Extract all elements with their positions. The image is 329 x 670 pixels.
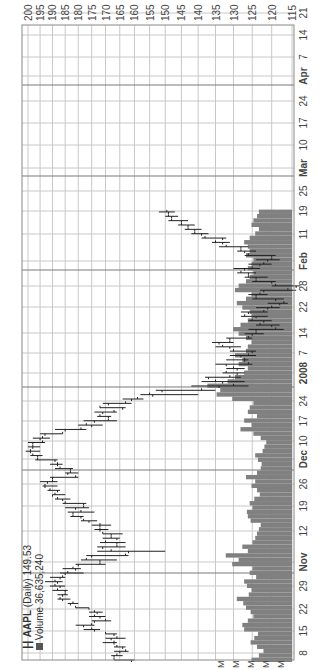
volume-bar xyxy=(259,210,292,214)
ohlc-icon: ┠┨ xyxy=(23,640,33,650)
volume-bar xyxy=(257,471,292,475)
date-tick-label: 22 xyxy=(298,301,309,313)
volume-bar xyxy=(263,649,292,653)
ohlc-bar xyxy=(103,401,132,405)
ohlc-bar xyxy=(47,488,60,492)
date-tick-label: Mar xyxy=(298,159,309,177)
date-tick-label: 21 xyxy=(298,7,309,19)
volume-bar xyxy=(252,484,292,488)
ohlc-bar xyxy=(97,545,125,549)
volume-value: 36,635,240 xyxy=(34,554,45,604)
ohlc-bar xyxy=(97,414,111,418)
volume-bar xyxy=(259,653,292,657)
date-tick-label: 10 xyxy=(298,139,309,151)
ohlc-chart: 2001951901851801751701651601551501451401… xyxy=(0,0,329,670)
ohlc-bar xyxy=(165,214,178,218)
volume-bar xyxy=(242,623,292,627)
volume-bar xyxy=(244,371,292,375)
date-tick-label: 26 xyxy=(298,478,309,490)
volume-bar xyxy=(261,523,292,527)
date-tick-label: 17 xyxy=(298,117,309,129)
date-tick-label: 28 xyxy=(298,280,309,292)
volume-bar xyxy=(248,619,292,623)
volume-bar xyxy=(254,636,292,640)
volume-bar xyxy=(250,501,292,505)
price-tick-label: 180 xyxy=(73,4,84,21)
date-tick-label: 24 xyxy=(298,395,309,407)
ohlc-bar xyxy=(45,580,63,584)
ohlc-bar xyxy=(84,419,117,423)
ohlc-bar xyxy=(65,471,78,475)
volume-bar xyxy=(248,344,292,348)
date-tick-label: 8 xyxy=(298,650,309,656)
volume-bar xyxy=(251,640,292,644)
volume-bar xyxy=(252,588,292,592)
ohlc-bar xyxy=(63,501,87,505)
ohlc-bar xyxy=(86,554,128,558)
price-tick-label: 155 xyxy=(145,4,156,21)
date-tick-label: Apr xyxy=(298,67,309,84)
volume-bar xyxy=(253,401,292,405)
date-tick-label: 11 xyxy=(298,228,309,239)
date-tick-label: 29 xyxy=(298,580,309,592)
volume-bar xyxy=(254,497,292,501)
ohlc-bar xyxy=(70,514,83,518)
volume-tick-label: M xyxy=(276,661,286,669)
ohlc-bar xyxy=(76,562,106,566)
date-tick-label: 7 xyxy=(298,350,309,356)
date-tick-label: Dec xyxy=(298,449,309,468)
volume-bar xyxy=(237,597,292,601)
volume-bar xyxy=(242,545,292,549)
ohlc-bar xyxy=(30,454,42,458)
price-legend: ┠┨ AAPL (Daily) 149.53 xyxy=(22,545,34,650)
interval-label: (Daily) xyxy=(22,578,33,607)
volume-bar xyxy=(247,510,292,514)
ohlc-bar xyxy=(216,345,241,349)
volume-tick-label: M xyxy=(231,661,241,669)
volume-bar xyxy=(248,366,292,370)
volume-bar xyxy=(217,392,292,396)
volume-bar xyxy=(247,584,292,588)
volume-bar xyxy=(262,462,292,466)
ohlc-bar xyxy=(55,427,86,431)
volume-tick-label: M xyxy=(216,661,226,669)
price-tick-label: 125 xyxy=(247,4,258,21)
volume-bar xyxy=(246,605,292,609)
price-tick-label: 200 xyxy=(23,4,34,21)
ohlc-bar xyxy=(106,632,117,636)
volume-bar xyxy=(249,592,292,596)
volume-bar xyxy=(259,227,292,231)
ohlc-bar xyxy=(212,240,230,244)
ohlc-bar xyxy=(106,636,126,640)
volume-tick-label: M xyxy=(261,661,271,669)
volume-bar xyxy=(250,405,292,409)
volume-bar xyxy=(244,418,292,422)
chart-window: 2001951901851801751701651601551501451401… xyxy=(0,0,329,670)
ohlc-bar xyxy=(81,558,117,562)
chart-legend: ┠┨ AAPL (Daily) 149.53 Volume 36,635,240 xyxy=(22,545,46,650)
date-tick-label: 15 xyxy=(298,625,309,637)
volume-bar xyxy=(253,614,292,618)
volume-bar xyxy=(261,436,292,440)
ohlc-bar xyxy=(100,406,126,410)
date-tick-label: 17 xyxy=(298,415,309,427)
price-tick-label: 190 xyxy=(47,4,58,21)
volume-bar xyxy=(246,336,292,340)
volume-bar xyxy=(248,410,292,414)
volume-bar xyxy=(255,231,292,235)
volume-bar xyxy=(263,449,292,453)
ohlc-bar xyxy=(202,236,227,240)
volume-bar xyxy=(244,579,292,583)
ohlc-bar xyxy=(237,271,256,275)
ohlc-bar xyxy=(92,619,111,623)
price-tick-label: 120 xyxy=(267,4,278,21)
volume-bar xyxy=(256,575,292,579)
volume-bar xyxy=(253,431,292,435)
ohlc-bar xyxy=(111,654,122,658)
date-tick-label: 19 xyxy=(298,500,309,512)
volume-bar xyxy=(252,340,292,344)
ohlc-bar xyxy=(226,367,244,371)
price-tick-label: 165 xyxy=(115,4,126,21)
volume-bar xyxy=(255,479,292,483)
volume-bar xyxy=(266,440,292,444)
